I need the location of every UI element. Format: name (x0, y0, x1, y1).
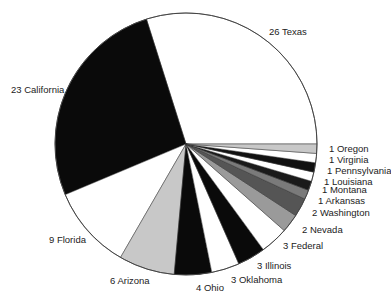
pie-slices (55, 13, 317, 275)
label-pennsylvania: 1 Pennsylvania (327, 165, 391, 176)
label-illinois: 3 Illinois (257, 260, 292, 271)
label-texas: 26 Texas (269, 26, 307, 37)
label-arkansas: 1 Arkansas (318, 195, 365, 206)
label-nevada: 2 Nevada (302, 224, 343, 235)
label-arizona: 6 Arizona (110, 275, 150, 286)
label-virginia: 1 Virginia (329, 154, 369, 165)
label-florida: 9 Florida (49, 234, 87, 245)
label-oregon: 1 Oregon (329, 143, 369, 154)
label-federal: 3 Federal (283, 240, 323, 251)
label-ohio: 4 Ohio (196, 282, 224, 293)
pie-chart: 26 Texas23 California9 Florida6 Arizona4… (0, 0, 391, 299)
label-louisiana: 1 Louisiana (324, 176, 373, 187)
label-washington: 2 Washington (312, 207, 370, 218)
label-oklahoma: 3 Oklahoma (231, 274, 283, 285)
label-california: 23 California (11, 84, 65, 95)
